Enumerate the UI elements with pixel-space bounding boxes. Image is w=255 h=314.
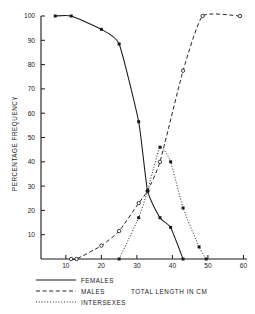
data-point-marker <box>137 120 140 123</box>
y-tick-label: 80 <box>28 61 36 68</box>
data-point-marker <box>181 69 184 72</box>
y-tick-label: 50 <box>28 134 36 141</box>
data-point-marker <box>54 15 57 18</box>
data-point-marker <box>169 160 172 163</box>
y-axis-title: PERCENTAGE FREQUENCY <box>11 84 18 204</box>
x-axis-title: TOTAL LENGTH IN CM <box>131 288 207 295</box>
series-intersexes <box>118 146 208 261</box>
y-axis-ticks: 102030405060708090100 <box>24 12 45 238</box>
series-males <box>69 14 241 261</box>
data-series-group <box>54 14 242 261</box>
x-axis-ticks: 102030405060 <box>62 255 247 269</box>
data-point-marker <box>69 257 72 260</box>
x-tick-label: 60 <box>240 262 248 269</box>
y-tick-label: 10 <box>28 231 36 238</box>
x-tick-label: 30 <box>133 262 141 269</box>
data-point-marker <box>137 201 140 204</box>
data-point-marker <box>117 229 120 232</box>
x-tick-label: 20 <box>98 262 106 269</box>
legend-item-females: FEMALES <box>81 277 114 284</box>
y-tick-label: 60 <box>28 110 36 117</box>
data-point-marker <box>158 146 161 149</box>
data-point-marker <box>182 206 185 209</box>
y-tick-label: 30 <box>28 183 36 190</box>
data-point-marker <box>158 160 161 163</box>
data-point-marker <box>100 244 103 247</box>
data-point-marker <box>182 258 185 261</box>
y-tick-label: 70 <box>28 85 36 92</box>
data-point-marker <box>100 28 103 31</box>
series-line <box>55 16 183 259</box>
series-line <box>119 147 206 259</box>
data-point-marker <box>198 245 201 248</box>
legend-swatches <box>36 280 76 302</box>
data-point-marker <box>118 42 121 45</box>
chart-figure: 102030405060708090100 102030405060 PERCE… <box>0 0 255 314</box>
y-tick-label: 100 <box>24 12 35 19</box>
x-tick-label: 50 <box>204 262 212 269</box>
y-tick-label: 40 <box>28 158 36 165</box>
data-point-marker <box>146 189 149 192</box>
data-point-marker <box>75 257 78 260</box>
legend-item-males: MALES <box>81 288 105 295</box>
data-point-marker <box>158 216 161 219</box>
chart-plot-area: 102030405060708090100 102030405060 <box>0 0 255 314</box>
data-point-marker <box>238 14 241 17</box>
data-point-marker <box>201 14 204 17</box>
data-point-marker <box>169 226 172 229</box>
y-tick-label: 20 <box>28 207 36 214</box>
legend-item-intersexes: INTERSEXES <box>81 299 126 306</box>
data-point-marker <box>70 15 73 18</box>
data-point-marker <box>118 258 121 261</box>
series-line <box>71 14 240 260</box>
x-tick-label: 40 <box>169 262 177 269</box>
series-females <box>54 15 185 261</box>
x-tick-label: 10 <box>62 262 70 269</box>
y-tick-label: 90 <box>28 37 36 44</box>
axes <box>41 16 247 259</box>
data-point-marker <box>137 216 140 219</box>
data-point-marker <box>205 258 208 261</box>
